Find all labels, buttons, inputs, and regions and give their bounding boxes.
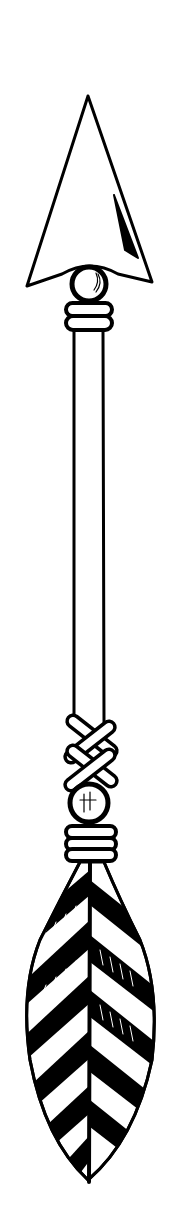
arrow-illustration: [0, 0, 185, 1225]
cross-lashing: [63, 713, 120, 793]
feather-fletching: [20, 862, 165, 1200]
shaft: [74, 332, 104, 722]
top-bead: [72, 267, 106, 301]
lower-bead: [70, 784, 108, 822]
top-bindings: [66, 303, 112, 330]
arrowhead: [27, 96, 152, 286]
lower-bindings: [66, 826, 116, 861]
